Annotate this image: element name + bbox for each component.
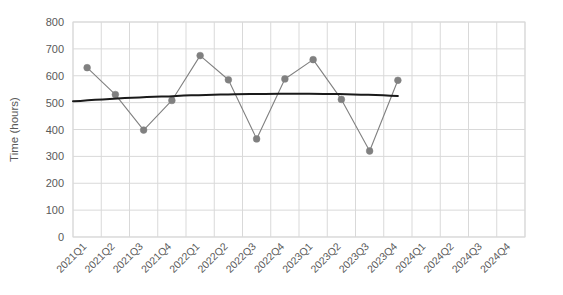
- x-tick-label: 2021Q4: [138, 240, 173, 275]
- y-tick-label: 300: [46, 150, 64, 162]
- x-tick-label: 2023Q1: [280, 240, 315, 275]
- data-point-marker: [366, 148, 373, 155]
- data-point-marker: [281, 76, 288, 83]
- data-point-marker: [168, 97, 175, 104]
- x-tick-label: 2022Q4: [251, 240, 286, 275]
- y-tick-label: 600: [46, 70, 64, 82]
- x-tick-label: 2023Q3: [336, 240, 371, 275]
- data-point-marker: [225, 76, 232, 83]
- y-axis-tick-labels: 0100200300400500600700800: [46, 16, 64, 243]
- x-tick-label: 2023Q4: [364, 240, 399, 275]
- data-point-marker: [197, 52, 204, 59]
- x-tick-label: 2022Q1: [167, 240, 202, 275]
- data-point-marker: [112, 91, 119, 98]
- x-tick-label: 2024Q1: [393, 240, 428, 275]
- x-tick-label: 2021Q2: [82, 240, 117, 275]
- x-tick-label: 2023Q2: [308, 240, 343, 275]
- data-point-marker: [84, 64, 91, 71]
- data-point-marker: [394, 77, 401, 84]
- data-point-marker: [310, 56, 317, 63]
- x-tick-label: 2022Q3: [223, 240, 258, 275]
- line-chart: 0100200300400500600700800Time (hours)202…: [0, 0, 563, 295]
- trendline: [73, 94, 398, 102]
- x-tick-label: 2024Q4: [477, 240, 512, 275]
- data-point-marker: [338, 96, 345, 103]
- y-tick-label: 0: [58, 231, 64, 243]
- x-tick-label: 2024Q2: [421, 240, 456, 275]
- y-tick-label: 800: [46, 16, 64, 28]
- chart-container: 0100200300400500600700800Time (hours)202…: [0, 0, 563, 295]
- data-point-marker: [253, 136, 260, 143]
- x-tick-label: 2022Q2: [195, 240, 230, 275]
- data-point-marker: [140, 127, 147, 134]
- x-axis-tick-labels: 2021Q12021Q22021Q32021Q42022Q12022Q22022…: [54, 240, 513, 275]
- x-tick-label: 2024Q3: [449, 240, 484, 275]
- y-tick-label: 200: [46, 177, 64, 189]
- y-axis-title: Time (hours): [8, 97, 20, 162]
- y-tick-label: 100: [46, 204, 64, 216]
- y-tick-label: 500: [46, 97, 64, 109]
- x-tick-label: 2021Q3: [110, 240, 145, 275]
- y-tick-label: 700: [46, 43, 64, 55]
- y-tick-label: 400: [46, 124, 64, 136]
- x-tick-label: 2021Q1: [54, 240, 89, 275]
